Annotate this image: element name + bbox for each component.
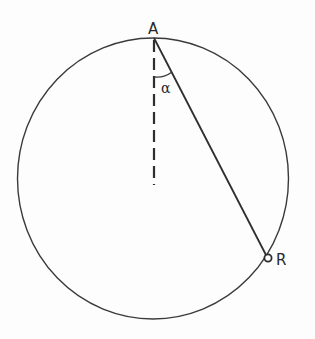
angle-alpha-label: α bbox=[161, 80, 171, 96]
point-r-marker bbox=[264, 254, 271, 261]
chord-a-r bbox=[154, 38, 266, 255]
circle-diagram: A R α bbox=[0, 0, 315, 339]
angle-arc bbox=[155, 72, 173, 77]
diagram-canvas: A R α bbox=[0, 0, 315, 339]
point-r-label: R bbox=[276, 251, 286, 269]
point-a-label: A bbox=[148, 20, 159, 38]
